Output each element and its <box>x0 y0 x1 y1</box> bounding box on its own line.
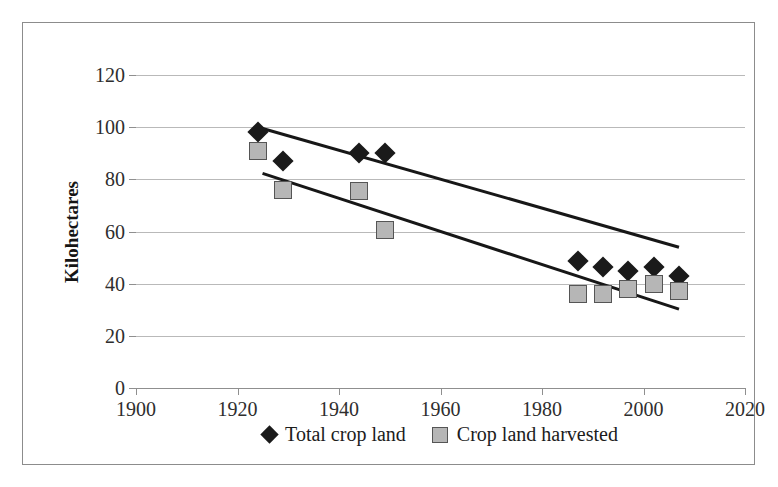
y-gridline <box>136 75 745 76</box>
x-tick-label: 1940 <box>319 398 359 421</box>
plot-area: 020406080100120 <box>136 75 745 388</box>
data-point-marker <box>350 182 368 200</box>
y-tick-mark <box>129 336 136 337</box>
y-axis-title-text: Kilohectares <box>61 180 83 282</box>
y-gridline <box>136 336 745 337</box>
data-point-marker <box>569 285 587 303</box>
x-tick-mark <box>542 388 543 395</box>
x-tick-mark <box>238 388 239 395</box>
x-tick-label: 2020 <box>725 398 765 421</box>
x-tick-label: 1960 <box>421 398 461 421</box>
data-point-marker <box>249 142 267 160</box>
data-point-marker <box>273 150 294 171</box>
data-point-marker <box>567 251 588 272</box>
x-tick-label: 1900 <box>116 398 156 421</box>
y-tick-label: 60 <box>105 220 125 243</box>
y-axis-title: Kilohectares <box>59 75 85 388</box>
y-tick-mark <box>129 75 136 76</box>
square-marker-icon <box>432 427 448 443</box>
x-tick-label: 2000 <box>624 398 664 421</box>
x-tick-mark <box>441 388 442 395</box>
y-tick-mark <box>129 388 136 389</box>
data-point-marker <box>645 275 663 293</box>
data-point-marker <box>594 285 612 303</box>
trendline <box>262 172 679 310</box>
y-gridline <box>136 127 745 128</box>
x-tick-mark <box>136 388 137 395</box>
legend-label: Crop land harvested <box>457 423 618 446</box>
y-tick-mark <box>129 232 136 233</box>
y-tick-label: 80 <box>105 168 125 191</box>
diamond-marker-icon <box>260 425 278 443</box>
y-tick-mark <box>129 179 136 180</box>
y-tick-label: 100 <box>95 116 125 139</box>
y-tick-label: 20 <box>105 324 125 347</box>
x-tick-mark <box>339 388 340 395</box>
data-point-marker <box>247 122 268 143</box>
data-point-marker <box>670 282 688 300</box>
trendline <box>262 127 679 249</box>
y-tick-mark <box>129 284 136 285</box>
data-point-marker <box>349 143 370 164</box>
y-tick-mark <box>129 127 136 128</box>
chart-legend: Total crop landCrop land harvested <box>136 423 745 446</box>
x-tick-mark <box>745 388 746 395</box>
x-tick-mark <box>644 388 645 395</box>
legend-entry: Crop land harvested <box>432 423 618 446</box>
x-tick-label: 1920 <box>218 398 258 421</box>
data-point-marker <box>619 280 637 298</box>
data-point-marker <box>592 256 613 277</box>
x-axis-line: 1900192019401960198020002020 <box>136 388 745 389</box>
y-tick-label: 120 <box>95 64 125 87</box>
y-tick-label: 0 <box>115 377 125 400</box>
data-point-marker <box>376 221 394 239</box>
data-point-marker <box>274 181 292 199</box>
data-point-marker <box>618 260 639 281</box>
legend-label: Total crop land <box>285 423 406 446</box>
x-tick-label: 1980 <box>522 398 562 421</box>
chart-frame: Kilohectares 020406080100120 19001920194… <box>22 22 755 465</box>
y-tick-label: 40 <box>105 272 125 295</box>
legend-entry: Total crop land <box>263 423 406 446</box>
chart-figure: Kilohectares 020406080100120 19001920194… <box>0 0 778 487</box>
